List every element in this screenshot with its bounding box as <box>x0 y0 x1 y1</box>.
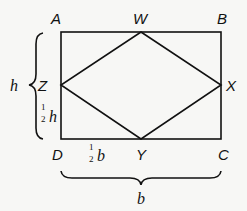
half-width-denominator: 2 <box>89 154 94 164</box>
width-label: b <box>137 190 145 207</box>
vertex-label-x: X <box>225 77 237 94</box>
geometry-diagram: A W B Z X D Y C h 1 2 h 1 2 b b <box>0 0 247 211</box>
width-brace <box>61 171 221 185</box>
half-height-variable: h <box>49 108 57 125</box>
half-height-numerator: 1 <box>41 102 46 112</box>
vertex-label-z: Z <box>37 77 48 94</box>
height-label: h <box>10 77 18 94</box>
vertex-label-a: A <box>50 10 61 27</box>
half-width-numerator: 1 <box>89 142 94 152</box>
vertex-label-y: Y <box>136 146 147 163</box>
vertex-label-d: D <box>52 146 63 163</box>
rectangle-abcd <box>61 32 221 139</box>
vertex-label-c: C <box>218 146 229 163</box>
half-width-variable: b <box>97 147 105 164</box>
rhombus-wxyz <box>61 32 221 139</box>
vertex-label-w: W <box>133 10 149 27</box>
half-height-denominator: 2 <box>41 114 46 124</box>
vertex-label-b: B <box>217 10 227 27</box>
